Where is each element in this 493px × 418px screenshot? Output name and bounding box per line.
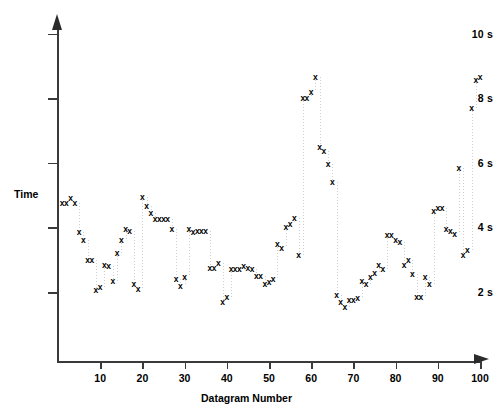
data-point: x xyxy=(457,163,462,172)
dropline xyxy=(303,98,304,255)
dropline xyxy=(459,168,460,234)
x-tick-label: 100 xyxy=(460,372,493,384)
x-tick-label: 30 xyxy=(165,372,205,384)
y-tick-label: 10 s xyxy=(447,28,493,40)
x-tick-label: 40 xyxy=(207,372,247,384)
data-point: x xyxy=(427,280,432,289)
data-point: x xyxy=(321,147,326,156)
dropline xyxy=(142,197,143,289)
data-point: x xyxy=(106,262,111,271)
data-point: x xyxy=(397,238,402,247)
data-point: x xyxy=(89,255,94,264)
x-tick-mark xyxy=(480,361,482,369)
dropline xyxy=(320,77,321,146)
data-point: x xyxy=(73,199,78,208)
dropline xyxy=(189,229,190,277)
y-axis-arrow-icon xyxy=(52,14,62,30)
dropline xyxy=(472,108,473,250)
data-point: x xyxy=(178,281,183,290)
x-tick-mark xyxy=(100,361,102,369)
x-tick-label: 70 xyxy=(333,372,373,384)
data-point: x xyxy=(465,246,470,255)
y-axis-line xyxy=(57,28,59,362)
data-point: x xyxy=(355,294,360,303)
x-tick-label: 20 xyxy=(122,372,162,384)
data-point: x xyxy=(127,226,132,235)
x-tick-mark xyxy=(311,361,313,369)
data-point: x xyxy=(372,268,377,277)
x-tick-mark xyxy=(353,361,355,369)
data-point: x xyxy=(478,73,483,82)
data-point: x xyxy=(469,104,474,113)
x-tick-label: 50 xyxy=(249,372,289,384)
data-point: x xyxy=(279,244,284,253)
x-tick-label: 10 xyxy=(80,372,120,384)
data-point: x xyxy=(410,270,415,279)
data-point: x xyxy=(419,293,424,302)
y-tick-label: 2 s xyxy=(447,286,493,298)
x-axis-title: Datagram Number xyxy=(0,392,493,404)
dropline xyxy=(434,211,435,284)
x-tick-mark xyxy=(396,361,398,369)
x-tick-label: 80 xyxy=(376,372,416,384)
data-point: x xyxy=(203,226,208,235)
data-point: x xyxy=(440,204,445,213)
x-tick-mark xyxy=(185,361,187,369)
y-tick-label: 6 s xyxy=(447,157,493,169)
x-tick-label: 90 xyxy=(418,372,458,384)
data-point: x xyxy=(110,276,115,285)
data-point: x xyxy=(224,293,229,302)
data-point: x xyxy=(98,283,103,292)
data-point: x xyxy=(309,87,314,96)
y-tick-mark xyxy=(48,163,58,165)
data-point: x xyxy=(313,73,318,82)
data-point: x xyxy=(452,230,457,239)
data-point: x xyxy=(330,178,335,187)
data-point: x xyxy=(81,236,86,245)
x-tick-mark xyxy=(142,361,144,369)
x-tick-mark xyxy=(269,361,271,369)
data-point: x xyxy=(406,255,411,264)
data-point: x xyxy=(140,192,145,201)
data-point: x xyxy=(136,285,141,294)
x-tick-mark xyxy=(227,361,229,369)
data-point: x xyxy=(165,215,170,224)
data-point: x xyxy=(271,275,276,284)
data-point: x xyxy=(170,225,175,234)
data-point: x xyxy=(326,160,331,169)
data-point: x xyxy=(381,265,386,274)
dropline xyxy=(463,168,464,255)
data-point: x xyxy=(216,259,221,268)
data-point: x xyxy=(292,213,297,222)
data-point: x xyxy=(182,273,187,282)
y-tick-mark xyxy=(48,98,58,100)
scatter-chart: Time Datagram Number 2 s4 s6 s8 s10 s 10… xyxy=(0,0,493,418)
x-tick-label: 60 xyxy=(291,372,331,384)
dropline xyxy=(176,229,177,279)
dropline xyxy=(387,235,388,269)
y-axis-title: Time xyxy=(14,188,38,200)
data-point: x xyxy=(115,249,120,258)
y-tick-mark xyxy=(48,34,58,36)
dropline xyxy=(277,244,278,280)
x-tick-mark xyxy=(438,361,440,369)
data-point: x xyxy=(296,251,301,260)
dropline xyxy=(337,182,338,295)
y-tick-mark xyxy=(48,292,58,294)
y-tick-mark xyxy=(48,227,58,229)
data-point: x xyxy=(119,236,124,245)
dropline xyxy=(134,231,135,284)
